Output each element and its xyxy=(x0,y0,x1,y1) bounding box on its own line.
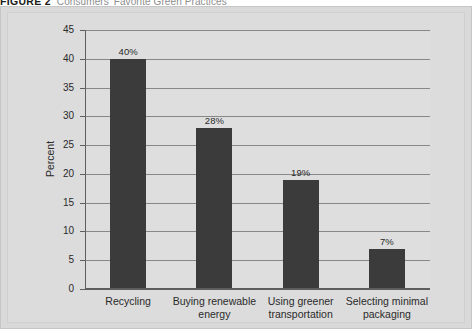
y-axis-tick-label: 40 xyxy=(54,54,74,64)
y-axis-tick xyxy=(80,88,85,89)
bar xyxy=(110,59,146,289)
plot-area: 40%28%19%7% xyxy=(85,30,430,289)
bar-value-label: 7% xyxy=(380,236,394,247)
bar xyxy=(369,249,405,289)
y-axis-tick xyxy=(80,289,85,290)
y-axis-tick xyxy=(80,174,85,175)
y-axis-tick xyxy=(80,59,85,60)
y-axis-title: Percent xyxy=(44,119,56,199)
y-axis-tick xyxy=(80,145,85,146)
x-axis-category-label: Using greener transportation xyxy=(258,295,344,320)
y-axis-tick-label: 25 xyxy=(54,140,74,150)
bar-value-label: 40% xyxy=(119,46,138,57)
y-axis-tick-label: 15 xyxy=(54,198,74,208)
y-axis-tick-label: 30 xyxy=(54,111,74,121)
bar xyxy=(196,128,232,289)
gridline xyxy=(85,289,430,290)
y-axis-tick-label: 45 xyxy=(54,25,74,35)
x-axis-category-label: Buying renewable energy xyxy=(171,295,257,320)
bar-value-label: 28% xyxy=(205,115,224,126)
y-axis-tick-label: 5 xyxy=(54,255,74,265)
y-axis-tick-label: 20 xyxy=(54,169,74,179)
x-axis-category-label: Selecting minimal packaging xyxy=(344,295,430,320)
y-axis-tick xyxy=(80,231,85,232)
chart-panel: Percent 40%28%19%7% 051015202530354045Re… xyxy=(0,6,472,329)
gridline xyxy=(85,30,430,31)
chart-panel-inner: Percent 40%28%19%7% 051015202530354045Re… xyxy=(7,12,465,323)
y-axis-tick xyxy=(80,260,85,261)
y-axis-tick-label: 10 xyxy=(54,226,74,236)
x-axis-category-label: Recycling xyxy=(85,295,171,308)
y-axis-tick-label: 35 xyxy=(54,83,74,93)
bar-value-label: 19% xyxy=(291,167,310,178)
y-axis-tick-label: 0 xyxy=(54,284,74,294)
bar xyxy=(283,180,319,289)
y-axis-tick xyxy=(80,116,85,117)
y-axis-tick xyxy=(80,203,85,204)
figure-container: FIGURE 2Consumers' Favorite Green Practi… xyxy=(0,0,472,329)
y-axis-tick xyxy=(80,30,85,31)
